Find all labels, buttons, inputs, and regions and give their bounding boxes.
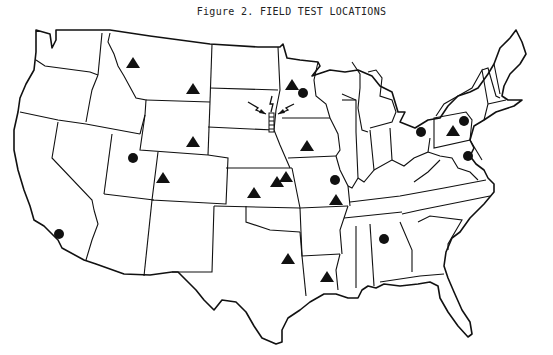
triangle-marker (281, 253, 295, 264)
triangle-marker (320, 271, 334, 282)
triangle-marker (329, 194, 343, 205)
us-map (0, 0, 553, 355)
circle-marker (379, 234, 389, 244)
circle-marker (128, 153, 138, 163)
circle-marker (54, 229, 64, 239)
triangle-marker (156, 172, 170, 183)
radio-tower-icon (248, 96, 294, 132)
state-borders (20, 33, 506, 296)
triangle-marker (285, 79, 299, 90)
triangle-markers (126, 57, 460, 282)
triangle-marker (279, 171, 293, 182)
circle-marker (416, 127, 426, 137)
triangle-marker (186, 136, 200, 147)
circle-marker (463, 151, 473, 161)
circle-marker (459, 116, 469, 126)
triangle-marker (247, 187, 261, 198)
triangle-marker (446, 125, 460, 136)
circle-markers (54, 88, 473, 244)
triangle-marker (186, 83, 200, 94)
circle-marker (298, 88, 308, 98)
triangle-marker (300, 140, 314, 151)
triangle-marker (126, 57, 140, 68)
circle-marker (330, 175, 340, 185)
